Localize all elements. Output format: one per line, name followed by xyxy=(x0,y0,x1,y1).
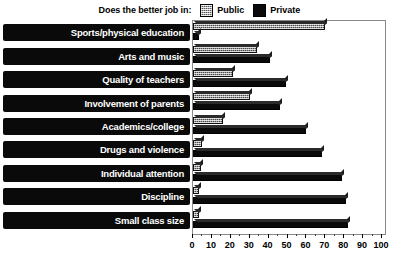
x-axis-minor-tick xyxy=(296,234,297,236)
bar-top-face xyxy=(194,115,225,118)
bar-group xyxy=(193,116,385,139)
bar-group xyxy=(193,163,385,186)
legend-entry-private: Private xyxy=(253,4,300,17)
legend-entry-public: Public xyxy=(200,4,244,17)
x-axis-minor-tick xyxy=(239,234,240,236)
bar-group xyxy=(193,22,385,45)
x-axis-tick xyxy=(211,234,212,238)
category-label: Drugs and violence xyxy=(3,141,190,158)
x-axis xyxy=(192,234,386,239)
bar-top-face xyxy=(194,54,272,57)
x-axis-tick-labels: 0102030405060708090100 xyxy=(182,240,396,254)
bar-group xyxy=(193,45,385,68)
category-label-column: Sports/physical educationArts and musicQ… xyxy=(3,22,190,233)
x-axis-minor-tick xyxy=(334,234,335,236)
x-axis-tick xyxy=(362,234,363,238)
bar-private xyxy=(193,221,348,228)
bar-private xyxy=(193,103,280,110)
bar-top-face xyxy=(194,44,259,47)
x-axis-tick-label: 100 xyxy=(373,240,388,250)
bar-private xyxy=(193,80,286,87)
category-row: Academics/college xyxy=(3,116,190,139)
bar-public xyxy=(193,187,199,194)
private-swatch-icon xyxy=(253,4,266,17)
bar-top-face xyxy=(194,101,282,104)
bar-group xyxy=(193,69,385,92)
x-axis-tick xyxy=(287,234,288,238)
category-row: Quality of teachers xyxy=(3,69,190,92)
x-axis-tick xyxy=(230,234,231,238)
bar-private xyxy=(193,150,322,157)
legend-title: Does the better job in: xyxy=(99,5,192,15)
bar-top-face xyxy=(194,21,327,24)
bar-public xyxy=(193,70,233,77)
x-axis-tick xyxy=(343,234,344,238)
category-label: Small class size xyxy=(3,212,190,229)
bar-top-face xyxy=(194,219,350,222)
category-row: Involvement of parents xyxy=(3,92,190,115)
category-row: Small class size xyxy=(3,210,190,233)
x-axis-tick-label: 20 xyxy=(225,240,235,250)
x-axis-tick-label: 0 xyxy=(189,240,194,250)
bar-top-face xyxy=(194,91,252,94)
category-label: Involvement of parents xyxy=(3,95,190,112)
x-axis-tick xyxy=(305,234,306,238)
category-label: Arts and music xyxy=(3,48,190,65)
bar-group xyxy=(193,92,385,115)
category-row: Discipline xyxy=(3,186,190,209)
bar-private xyxy=(193,174,342,181)
x-axis-tick-label: 30 xyxy=(244,240,254,250)
category-label: Academics/college xyxy=(3,118,190,135)
x-axis-tick-label: 10 xyxy=(206,240,216,250)
bar-private xyxy=(193,33,199,40)
bar-top-face xyxy=(194,125,308,128)
public-swatch-icon xyxy=(200,4,213,17)
category-row: Sports/physical education xyxy=(3,22,190,45)
x-axis-tick xyxy=(192,234,193,238)
bar-top-face xyxy=(194,68,235,71)
category-label: Discipline xyxy=(3,188,190,205)
x-axis-tick-label: 90 xyxy=(357,240,367,250)
bar-group xyxy=(193,210,385,233)
x-axis-minor-tick xyxy=(258,234,259,236)
bar-public xyxy=(193,46,257,53)
bar-top-face xyxy=(194,172,344,175)
x-axis-minor-tick xyxy=(353,234,354,236)
legend-label-public: Public xyxy=(217,5,244,15)
chart-root: Does the better job in: Public Private S… xyxy=(0,0,399,259)
bar-top-face xyxy=(194,78,288,81)
bar-group xyxy=(193,186,385,209)
category-label: Individual attention xyxy=(3,165,190,182)
x-axis-tick-label: 70 xyxy=(319,240,329,250)
bar-private xyxy=(193,127,306,134)
category-row: Drugs and violence xyxy=(3,139,190,162)
bar-private xyxy=(193,197,346,204)
x-axis-tick xyxy=(268,234,269,238)
bars-area xyxy=(193,22,385,233)
bar-public xyxy=(193,23,325,30)
x-axis-tick-label: 80 xyxy=(338,240,348,250)
bar-public xyxy=(193,211,199,218)
x-axis-tick xyxy=(381,234,382,238)
bar-public xyxy=(193,93,250,100)
bar-public xyxy=(193,140,202,147)
x-axis-minor-tick xyxy=(201,234,202,236)
bar-group xyxy=(193,139,385,162)
x-axis-tick xyxy=(324,234,325,238)
bar-private xyxy=(193,56,270,63)
bar-top-face xyxy=(194,195,348,198)
x-axis-tick-label: 50 xyxy=(281,240,291,250)
x-axis-minor-tick xyxy=(220,234,221,236)
x-axis-tick-label: 40 xyxy=(263,240,273,250)
category-row: Arts and music xyxy=(3,45,190,68)
x-axis-minor-tick xyxy=(277,234,278,236)
x-axis-tick-label: 60 xyxy=(300,240,310,250)
bar-top-face xyxy=(194,138,204,141)
bar-public xyxy=(193,117,223,124)
legend-label-private: Private xyxy=(270,5,300,15)
x-axis-minor-tick xyxy=(372,234,373,236)
category-row: Individual attention xyxy=(3,163,190,186)
bar-public xyxy=(193,164,201,171)
bar-top-face xyxy=(194,148,324,151)
x-axis-minor-tick xyxy=(315,234,316,236)
